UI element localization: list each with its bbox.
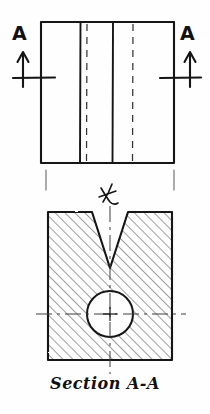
section-letter-left: A	[12, 24, 27, 43]
top-view-group	[41, 22, 174, 163]
cutting-plane-left	[13, 52, 55, 87]
top-view-edge-line-2	[113, 22, 114, 163]
cutting-plane-line-right	[160, 78, 201, 79]
section-view-group	[36, 205, 186, 374]
centerline-symbol-icon	[99, 184, 118, 204]
section-caption: Section A-A	[0, 374, 210, 393]
top-view-hidden-line-1	[87, 24, 88, 161]
cutting-plane-line-left	[13, 78, 55, 79]
section-hatching	[40, 205, 185, 370]
drawing-sheet: A A Section A-A	[0, 0, 210, 414]
top-view-edge-line-1	[80, 22, 81, 163]
cutting-plane-right	[160, 52, 201, 87]
engineering-drawing-canvas	[0, 0, 210, 414]
top-view-outline	[41, 22, 174, 163]
section-letter-right: A	[180, 24, 195, 43]
top-view-hidden-line-2	[133, 24, 134, 161]
projection-lines	[46, 170, 174, 190]
